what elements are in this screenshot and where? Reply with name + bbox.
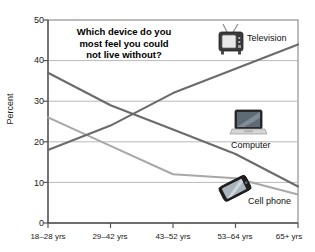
x-tick-label-0: 18–28 yrs [18,232,78,241]
series-label-television: Television [247,33,287,43]
y-tick-marks [43,20,48,223]
x-tick-label-3: 53–64 yrs [205,232,265,241]
x-tick-label-1: 29–42 yrs [80,232,140,241]
x-tick-label-4: 65+ yrs [264,232,314,241]
chart-title-line-1: Which device do you [66,26,182,38]
chart-title-line-3: not live without? [66,49,182,61]
chart-title-line-2: most feel you could [66,38,182,50]
chart-title: Which device do you most feel you could … [66,26,182,61]
chart-container: Percent 50 40 30 20 10 0 [0,0,315,252]
series-label-computer: Computer [231,140,271,150]
x-tick-marks [48,223,298,228]
x-tick-label-2: 43–52 yrs [143,232,203,241]
series-label-cell-phone: Cell phone [248,196,291,206]
laptop-computer-icon [230,110,267,134]
